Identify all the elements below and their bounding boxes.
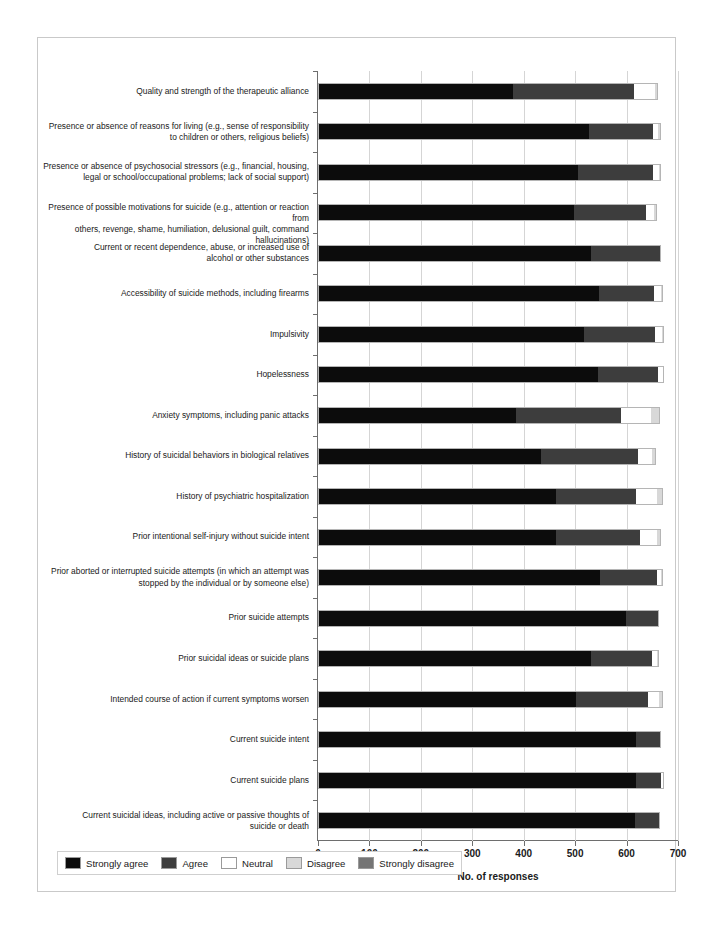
bar-segment-nu: [636, 488, 657, 505]
legend-item[interactable]: Disagree: [286, 857, 345, 869]
chart-row: Impulsivity: [318, 326, 678, 343]
x-tick: [627, 841, 628, 846]
x-tick: [524, 841, 525, 846]
stacked-bar[interactable]: [318, 285, 663, 302]
bar-segment-di: [655, 83, 658, 100]
bar-segment-sa: [318, 366, 598, 383]
stacked-bar[interactable]: [318, 366, 664, 383]
chart-row: History of suicidal behaviors in biologi…: [318, 448, 678, 465]
y-tick: [313, 193, 318, 194]
bar-segment-ag: [516, 407, 621, 424]
legend-swatch-icon: [286, 857, 302, 869]
bar-segment-nu: [621, 407, 651, 424]
bar-segment-sa: [318, 650, 591, 667]
y-tick: [313, 638, 318, 639]
plot-area: Quality and strength of the therapeutic …: [318, 71, 678, 841]
legend-item[interactable]: Agree: [161, 857, 208, 869]
category-label: Prior aborted or interrupted suicide att…: [41, 566, 309, 588]
chart-row: Hopelessness: [318, 366, 678, 383]
y-tick: [313, 557, 318, 558]
stacked-bar[interactable]: [318, 488, 663, 505]
chart-row: Presence of possible motivations for sui…: [318, 204, 678, 221]
bar-segment-nu: [654, 285, 661, 302]
bar-segment-di: [663, 366, 665, 383]
bar-segment-sa: [318, 164, 578, 181]
chart-legend: Strongly agreeAgreeNeutralDisagreeStrong…: [57, 851, 462, 875]
legend-swatch-icon: [221, 857, 237, 869]
stacked-bar[interactable]: [318, 731, 661, 748]
category-label: Impulsivity: [41, 329, 309, 340]
y-tick: [313, 112, 318, 113]
y-tick: [313, 476, 318, 477]
chart-row: Current suicidal ideas, including active…: [318, 812, 678, 829]
chart-row: Prior intentional self-injury without su…: [318, 529, 678, 546]
bar-segment-nu: [638, 448, 652, 465]
legend-swatch-icon: [65, 857, 81, 869]
bar-segment-sa: [318, 83, 513, 100]
category-label: Intended course of action if current sym…: [41, 694, 309, 705]
stacked-bar[interactable]: [318, 569, 663, 586]
stacked-bar[interactable]: [318, 529, 661, 546]
chart-row: Current suicide plans: [318, 772, 678, 789]
category-label: Prior intentional self-injury without su…: [41, 531, 309, 542]
bar-segment-ag: [626, 610, 659, 627]
y-tick: [313, 679, 318, 680]
x-tick-label: 400: [515, 848, 532, 859]
bar-segment-di: [657, 529, 661, 546]
x-axis-line: [317, 840, 678, 841]
bar-segment-di: [651, 407, 660, 424]
stacked-bar[interactable]: [318, 448, 656, 465]
x-tick-label: 700: [670, 848, 687, 859]
x-tick: [472, 841, 473, 846]
stacked-bar[interactable]: [318, 204, 657, 221]
bar-segment-sa: [318, 569, 600, 586]
bar-segment-ag: [556, 488, 636, 505]
category-label: Hopelessness: [41, 369, 309, 380]
stacked-bar[interactable]: [318, 83, 658, 100]
stacked-bar[interactable]: [318, 812, 660, 829]
category-label: Presence of possible motivations for sui…: [41, 202, 309, 247]
bar-segment-ag: [513, 83, 634, 100]
y-tick: [313, 71, 318, 72]
bar-segment-ag: [591, 245, 661, 262]
bar-segment-ag: [600, 569, 657, 586]
chart-row: Anxiety symptoms, including panic attack…: [318, 407, 678, 424]
y-tick: [313, 152, 318, 153]
bar-segment-ag: [636, 772, 661, 789]
bar-segment-sa: [318, 529, 556, 546]
x-tick: [575, 841, 576, 846]
stacked-bar[interactable]: [318, 772, 664, 789]
category-label: Prior suicidal ideas or suicide plans: [41, 653, 309, 664]
legend-label: Neutral: [242, 858, 273, 869]
legend-item[interactable]: Strongly agree: [65, 857, 148, 869]
stacked-bar[interactable]: [318, 123, 661, 140]
x-tick: [421, 841, 422, 846]
legend-item[interactable]: Strongly disagree: [358, 857, 454, 869]
bar-segment-ag: [576, 691, 648, 708]
category-label: Presence or absence of reasons for livin…: [41, 121, 309, 143]
category-label: History of suicidal behaviors in biologi…: [41, 450, 309, 461]
bar-segment-sa: [318, 448, 541, 465]
stacked-bar[interactable]: [318, 164, 661, 181]
stacked-bar[interactable]: [318, 245, 661, 262]
bar-segment-sa: [318, 204, 574, 221]
bar-segment-di: [657, 650, 659, 667]
stacked-bar[interactable]: [318, 691, 663, 708]
chart-row: Current suicide intent: [318, 731, 678, 748]
stacked-bar[interactable]: [318, 407, 660, 424]
legend-swatch-icon: [358, 857, 374, 869]
bar-segment-sa: [318, 812, 635, 829]
bar-segment-di: [662, 326, 664, 343]
bar-segment-ag: [574, 204, 646, 221]
category-label: Current suicide plans: [41, 775, 309, 786]
legend-item[interactable]: Neutral: [221, 857, 273, 869]
x-tick: [318, 841, 319, 846]
stacked-bar[interactable]: [318, 650, 659, 667]
stacked-bar[interactable]: [318, 326, 664, 343]
stacked-bar[interactable]: [318, 610, 659, 627]
legend-label: Disagree: [307, 858, 345, 869]
chart-row: Accessibility of suicide methods, includ…: [318, 285, 678, 302]
bar-segment-di: [659, 691, 663, 708]
y-tick: [313, 274, 318, 275]
bar-segment-sa: [318, 326, 584, 343]
